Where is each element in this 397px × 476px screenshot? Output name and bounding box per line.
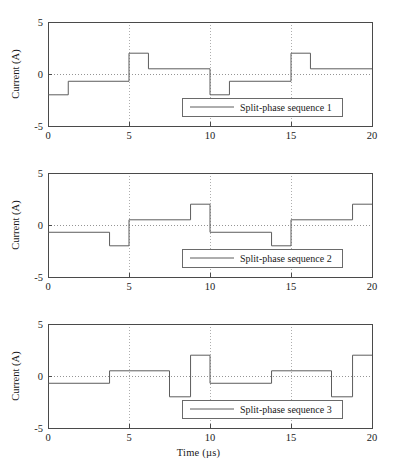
chart-panel-1: -50505101520Current (A)Split-phase seque… bbox=[0, 8, 397, 158]
y-tick-label: -5 bbox=[34, 423, 43, 434]
chart-panel-3: -50505101520Current (A)Split-phase seque… bbox=[0, 310, 397, 460]
x-tick-label: 10 bbox=[205, 130, 216, 141]
x-tick-label: 0 bbox=[45, 432, 50, 443]
y-tick-label: -5 bbox=[34, 272, 43, 283]
y-axis-label: Current (A) bbox=[10, 351, 22, 401]
y-tick-label: 0 bbox=[38, 371, 43, 382]
x-tick-label: 15 bbox=[286, 281, 297, 292]
x-tick-label: 20 bbox=[367, 281, 378, 292]
x-tick-label: 5 bbox=[126, 432, 131, 443]
x-tick-label: 0 bbox=[45, 281, 50, 292]
x-tick-label: 5 bbox=[126, 281, 131, 292]
x-axis-title: Time (µs) bbox=[0, 447, 397, 458]
chart-svg-1: -50505101520Current (A)Split-phase seque… bbox=[0, 8, 397, 158]
x-tick-label: 5 bbox=[126, 130, 131, 141]
y-tick-label: 5 bbox=[38, 168, 43, 179]
chart-panel-2: -50505101520Current (A)Split-phase seque… bbox=[0, 159, 397, 309]
figure-container: -50505101520Current (A)Split-phase seque… bbox=[0, 0, 397, 476]
legend-label: Split-phase sequence 3 bbox=[240, 404, 332, 415]
x-tick-label: 20 bbox=[367, 130, 378, 141]
y-axis-label: Current (A) bbox=[10, 200, 22, 250]
x-tick-label: 10 bbox=[205, 281, 216, 292]
y-tick-label: 5 bbox=[38, 17, 43, 28]
x-tick-label: 15 bbox=[286, 432, 297, 443]
legend-label: Split-phase sequence 1 bbox=[240, 102, 332, 113]
y-tick-label: 0 bbox=[38, 220, 43, 231]
legend-label: Split-phase sequence 2 bbox=[240, 253, 332, 264]
y-tick-label: 0 bbox=[38, 69, 43, 80]
y-tick-label: -5 bbox=[34, 121, 43, 132]
y-tick-label: 5 bbox=[38, 319, 43, 330]
x-tick-label: 0 bbox=[45, 130, 50, 141]
chart-svg-3: -50505101520Current (A)Split-phase seque… bbox=[0, 310, 397, 460]
y-axis-label: Current (A) bbox=[10, 49, 22, 99]
chart-svg-2: -50505101520Current (A)Split-phase seque… bbox=[0, 159, 397, 309]
x-tick-label: 10 bbox=[205, 432, 216, 443]
x-tick-label: 15 bbox=[286, 130, 297, 141]
x-tick-label: 20 bbox=[367, 432, 378, 443]
